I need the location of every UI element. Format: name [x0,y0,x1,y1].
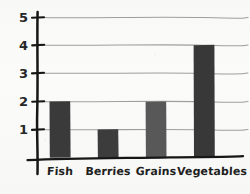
y-tick-label-4: 4 [12,39,28,52]
y-tick-label-5: 5 [12,11,28,24]
y-axis-line [37,12,38,174]
y-tick-label-1: 1 [12,123,28,136]
tick-mark-1 [32,129,44,130]
bar-chart: 5 4 3 2 1 Fish Berries Grains Vegetables [0,0,250,194]
y-tick-label-2: 2 [12,95,28,108]
x-label-vegetables: Vegetables [177,166,246,177]
x-label-berries: Berries [85,166,132,177]
tick-mark-2 [32,101,44,102]
y-tick-label-3: 3 [12,67,28,80]
gridline-5 [37,17,248,18]
x-label-fish: Fish [41,166,80,177]
bar-berries [98,129,119,158]
gridline-4 [37,45,248,46]
x-label-grains: Grains [134,166,179,177]
gridline-3 [37,73,248,74]
tick-mark-3 [32,73,44,74]
bar-grains [146,101,167,157]
bar-vegetables [194,45,215,158]
tick-mark-4 [32,45,44,46]
tick-mark-5 [32,17,44,18]
bar-fish [50,101,71,158]
